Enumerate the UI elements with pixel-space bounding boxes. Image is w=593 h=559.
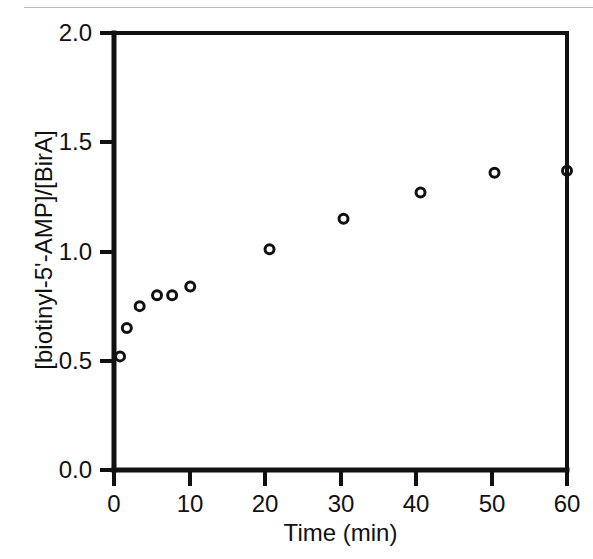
x-axis-title: Time (min)	[114, 519, 567, 547]
data-point-group	[116, 166, 572, 361]
figure-panel: 2.0 1.5 1.0 0.5 0.0 0 10 20 30 40 50 60 …	[0, 0, 593, 559]
x-tick-label-10: 10	[177, 492, 204, 516]
x-tick-label-40: 40	[403, 492, 430, 516]
data-point	[168, 291, 177, 300]
data-point	[186, 282, 195, 291]
data-point	[153, 291, 162, 300]
data-point	[116, 352, 125, 361]
y-axis-title: [biotinyl-5'-AMP]/[BirA]	[30, 30, 58, 470]
data-point	[339, 214, 348, 223]
data-point	[416, 188, 425, 197]
x-tick-label-0: 0	[107, 492, 120, 516]
x-tick-label-60: 60	[554, 492, 581, 516]
plot-frame	[114, 33, 567, 470]
data-point	[490, 168, 499, 177]
x-tick-label-20: 20	[252, 492, 279, 516]
x-tick-label-50: 50	[479, 492, 506, 516]
data-point	[135, 302, 144, 311]
data-point	[265, 245, 274, 254]
data-point	[122, 323, 131, 332]
x-tick-label-30: 30	[328, 492, 355, 516]
